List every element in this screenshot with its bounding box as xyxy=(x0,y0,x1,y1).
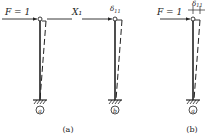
structural-diagram: F = 1 X₁ δ11 a b (a) xyxy=(0,0,219,137)
svg-text:a: a xyxy=(191,107,195,114)
svg-text:b: b xyxy=(113,107,117,114)
deflected-shape-a xyxy=(40,21,46,100)
fixed-support-a xyxy=(33,100,47,104)
redundant-label: X₁ xyxy=(71,7,82,17)
hinge-b xyxy=(113,17,117,21)
svg-text:a: a xyxy=(38,107,42,114)
caption-b: (b) xyxy=(186,125,197,134)
panel-a: F = 1 X₁ δ11 a b (a) xyxy=(2,5,122,134)
load-label-b: F = 1 xyxy=(156,7,182,17)
fixed-support-b xyxy=(108,100,122,104)
hinge-a xyxy=(38,17,42,21)
displacement-label-a: δ11 xyxy=(110,5,121,14)
fixed-support-b2 xyxy=(186,100,200,104)
load-label-a: F = 1 xyxy=(4,7,30,17)
panel-b: F = 1 δ11 a (b) xyxy=(156,0,205,134)
hinge-b2 xyxy=(191,17,195,21)
deflected-shape-b2 xyxy=(194,20,200,100)
deflected-shape-b xyxy=(116,20,122,100)
caption-a: (a) xyxy=(62,125,73,134)
displacement-label-b: δ11 xyxy=(192,0,203,8)
